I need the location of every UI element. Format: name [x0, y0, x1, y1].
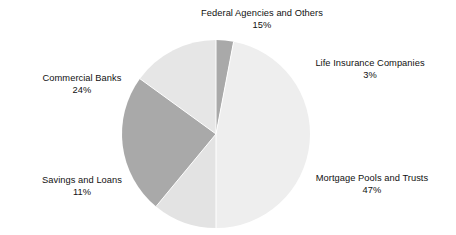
- slice-label-federal-agencies-name: Federal Agencies and Others: [192, 8, 332, 20]
- slice-label-life-insurance: Life Insurance Companies 3%: [294, 58, 446, 81]
- slice-label-savings-and-loans-name: Savings and Loans: [14, 175, 150, 187]
- slice-label-savings-and-loans-percent: 11%: [14, 187, 150, 199]
- slice-label-life-insurance-percent: 3%: [294, 70, 446, 82]
- slice-label-mortgage-pools-name: Mortgage Pools and Trusts: [296, 173, 448, 185]
- slice-label-life-insurance-name: Life Insurance Companies: [294, 58, 446, 70]
- slice-label-mortgage-pools: Mortgage Pools and Trusts 47%: [296, 173, 448, 196]
- slice-label-federal-agencies-percent: 15%: [192, 20, 332, 32]
- slice-label-commercial-banks-percent: 24%: [14, 85, 150, 97]
- slice-label-commercial-banks-name: Commercial Banks: [14, 73, 150, 85]
- pie-chart-figure: Federal Agencies and Others 15% Life Ins…: [0, 0, 456, 235]
- slice-label-commercial-banks: Commercial Banks 24%: [14, 73, 150, 96]
- pie-chart-canvas: [0, 0, 456, 235]
- slice-label-federal-agencies: Federal Agencies and Others 15%: [192, 8, 332, 31]
- slice-label-savings-and-loans: Savings and Loans 11%: [14, 175, 150, 198]
- slice-label-mortgage-pools-percent: 47%: [296, 185, 448, 197]
